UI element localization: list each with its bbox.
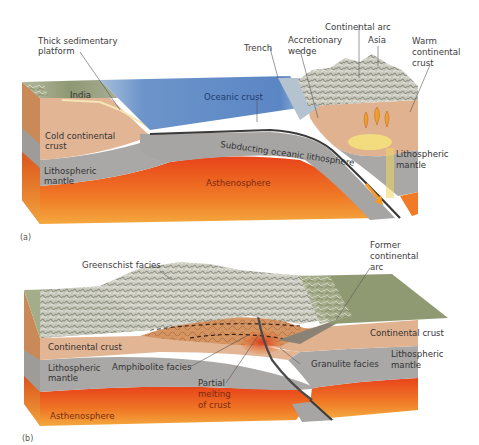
- label-lithospheric-mantle-a-left-2: mantle: [44, 176, 74, 186]
- label-continental-arc: Continental arc: [325, 22, 391, 32]
- label-partial-melting-1: Partial: [198, 378, 225, 388]
- label-warm-continental-crust-1: Warm: [412, 36, 437, 46]
- label-thick-sedimentary-platform-2: platform: [38, 46, 75, 56]
- label-cold-continental-crust-2: crust: [45, 141, 67, 151]
- label-lithospheric-mantle-b-left-2: mantle: [48, 373, 78, 383]
- label-former-continental-arc-3: arc: [370, 262, 384, 272]
- label-india: India: [70, 90, 91, 100]
- asthenosphere-a-right: [400, 192, 418, 216]
- label-continental-crust-b-left: Continental crust: [48, 342, 123, 352]
- label-warm-continental-crust-3: crust: [412, 58, 434, 68]
- label-greenschist-facies: Greenschist facies: [82, 260, 161, 270]
- melt-column: [386, 148, 394, 198]
- label-lithospheric-mantle-b-right-2: mantle: [391, 360, 421, 370]
- label-warm-continental-crust-2: continental: [412, 47, 460, 57]
- magma-glow: [348, 134, 392, 150]
- label-lithospheric-mantle-a-left-1: Lithospheric: [44, 166, 97, 176]
- panel-a: Thick sedimentary platform India Oceanic…: [20, 22, 460, 242]
- label-cold-continental-crust-1: Cold continental: [45, 131, 115, 141]
- label-asthenosphere-a: Asthenosphere: [206, 178, 270, 188]
- label-trench: Trench: [243, 43, 272, 53]
- label-continental-crust-b-right: Continental crust: [370, 328, 445, 338]
- asia-mountains: [298, 54, 418, 106]
- label-asia: Asia: [368, 35, 386, 45]
- label-amphibolite-facies: Amphibolite facies: [112, 362, 192, 372]
- panel-b-label: (b): [22, 434, 33, 443]
- label-asthenosphere-b: Asthenosphere: [50, 411, 114, 421]
- label-oceanic-crust: Oceanic crust: [204, 92, 264, 102]
- label-thick-sedimentary-platform-1: Thick sedimentary: [37, 36, 117, 46]
- label-former-continental-arc-2: continental: [370, 251, 418, 261]
- label-granulite-facies: Granulite facies: [311, 359, 379, 369]
- label-accretionary-wedge-1: Accretionary: [288, 35, 342, 45]
- label-partial-melting-2: melting: [198, 389, 231, 399]
- label-lithospheric-mantle-a-right-2: mantle: [396, 160, 426, 170]
- panel-b: Greenschist facies Former continental ar…: [22, 240, 448, 443]
- label-partial-melting-3: of crust: [198, 400, 231, 410]
- label-accretionary-wedge-2: wedge: [288, 46, 317, 56]
- label-lithospheric-mantle-a-right-1: Lithospheric: [396, 149, 449, 159]
- label-lithospheric-mantle-b-left-1: Lithospheric: [48, 363, 101, 373]
- label-former-continental-arc-1: Former: [370, 240, 401, 250]
- label-lithospheric-mantle-b-right-1: Lithospheric: [391, 349, 444, 359]
- panel-a-label: (a): [20, 233, 31, 242]
- figure-canvas: Thick sedimentary platform India Oceanic…: [0, 0, 479, 445]
